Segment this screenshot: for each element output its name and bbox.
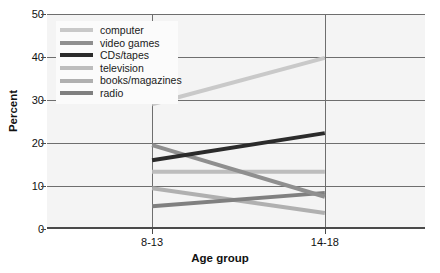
legend-label: video games <box>100 38 160 49</box>
legend-swatch-icon <box>60 53 93 57</box>
legend-item: computer <box>60 24 174 37</box>
y-tick-mark-50 <box>41 14 46 15</box>
y-tick-label-50: 50 <box>4 9 44 20</box>
legend-label: CDs/tapes <box>100 50 149 61</box>
y-tick-mark-0 <box>41 229 46 230</box>
x-tick-label-8-13: 8-13 <box>141 236 163 248</box>
legend-swatch-icon <box>60 28 93 32</box>
legend-label: computer <box>100 25 144 36</box>
legend-swatch-icon <box>60 79 93 83</box>
legend-item: television <box>60 62 174 75</box>
y-axis-title: Percent <box>7 71 19 151</box>
legend-swatch-icon <box>60 66 93 70</box>
y-tick-label-10: 10 <box>4 181 44 192</box>
x-tick-mark-8-13 <box>152 229 153 234</box>
y-tick-label-0: 0 <box>4 224 44 235</box>
x-tick-mark-14-18 <box>325 229 326 234</box>
legend-swatch-icon <box>60 91 93 95</box>
legend-item: radio <box>60 87 174 100</box>
legend-label: books/magazines <box>100 75 182 86</box>
legend-label: television <box>100 63 144 74</box>
y-tick-mark-30 <box>41 100 46 101</box>
series-line-radio <box>152 193 325 206</box>
legend-label: radio <box>100 88 123 99</box>
line-chart: 01020304050 8-1314-18 Age group Percent … <box>0 0 440 273</box>
legend-item: video games <box>60 37 174 50</box>
y-tick-mark-10 <box>41 186 46 187</box>
x-tick-label-14-18: 14-18 <box>311 236 339 248</box>
chart-legend: computervideo gamesCDs/tapestelevisionbo… <box>56 21 178 104</box>
y-tick-mark-40 <box>41 57 46 58</box>
series-line-cds-tapes <box>152 133 325 160</box>
legend-item: CDs/tapes <box>60 49 174 62</box>
y-tick-label-40: 40 <box>4 52 44 63</box>
y-tick-mark-20 <box>41 143 46 144</box>
legend-swatch-icon <box>60 41 93 45</box>
x-axis-title: Age group <box>0 252 440 264</box>
legend-item: books/magazines <box>60 74 174 87</box>
